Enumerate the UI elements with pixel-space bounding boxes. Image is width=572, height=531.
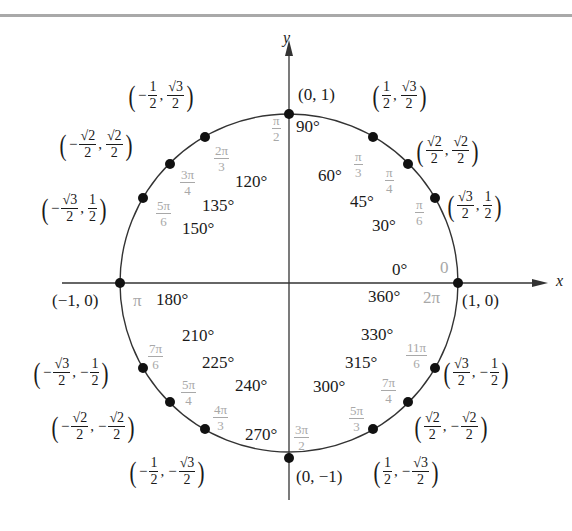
coord-270: (0, −1) [296,468,342,485]
deg-180: 180° [156,291,188,308]
deg-225: 225° [202,354,234,371]
coord-0: (1, 0) [462,292,499,309]
rad-90: π2 [272,114,281,143]
deg-210: 210° [182,327,214,344]
x-axis-label: x [556,273,563,289]
coord-135: ( − √22, √22 ) [58,129,134,160]
rad-135: 3π4 [180,168,195,197]
deg-135: 135° [202,197,234,214]
rad-180: π [133,292,142,309]
rad-45: π4 [385,166,394,195]
coord-300: ( 12, − √32 ) [372,456,440,487]
coord-60: ( 12, √32 ) [371,80,428,111]
deg-360: 360° [368,288,400,305]
coord-240: ( − 12, − √32 ) [128,456,206,487]
rad-150: 5π6 [156,199,171,228]
coord-45: ( √22, √22 ) [415,135,480,166]
rad-270: 3π2 [294,423,309,452]
deg-90: 90° [296,118,320,135]
rad-225: 5π4 [181,378,196,407]
rad-60: π3 [354,150,363,179]
deg-150: 150° [182,220,214,237]
coord-210: ( − √32, − 12 ) [32,357,110,388]
coord-315: ( √22, − √22 ) [413,411,489,442]
deg-0: 0° [392,261,407,278]
deg-30: 30° [372,217,396,234]
unit-circle-graphic [0,0,572,531]
deg-330: 330° [361,326,393,343]
coord-330: ( √32, − 12 ) [442,357,510,388]
deg-315: 315° [345,354,377,371]
coord-150: ( − √32, 12 ) [40,193,108,224]
rad-315: 7π4 [381,376,396,405]
rad-210: 7π6 [148,342,163,371]
rad-120: 2π3 [214,144,229,173]
rad-330: 11π6 [406,341,427,370]
rad-240: 4π3 [213,403,228,432]
coord-120: ( − 12, √32 ) [127,80,195,111]
deg-300: 300° [313,378,345,395]
deg-60: 60° [318,167,342,184]
deg-45: 45° [350,193,374,210]
coord-225: ( − √22, − √22 ) [50,411,136,442]
rad-2pi: 2π [423,289,440,306]
coord-90: (0, 1) [298,86,335,103]
coord-30: ( √32, 12 ) [446,190,503,221]
deg-240: 240° [235,377,267,394]
deg-120: 120° [235,173,267,190]
rad-0: 0 [440,259,449,276]
coord-180: (−1, 0) [52,292,98,309]
x-axis-arrow-icon [532,279,548,287]
rad-300: 5π3 [349,404,364,433]
deg-270: 270° [245,426,277,443]
y-axis-label: y [283,30,290,46]
rad-30: π6 [415,198,424,227]
